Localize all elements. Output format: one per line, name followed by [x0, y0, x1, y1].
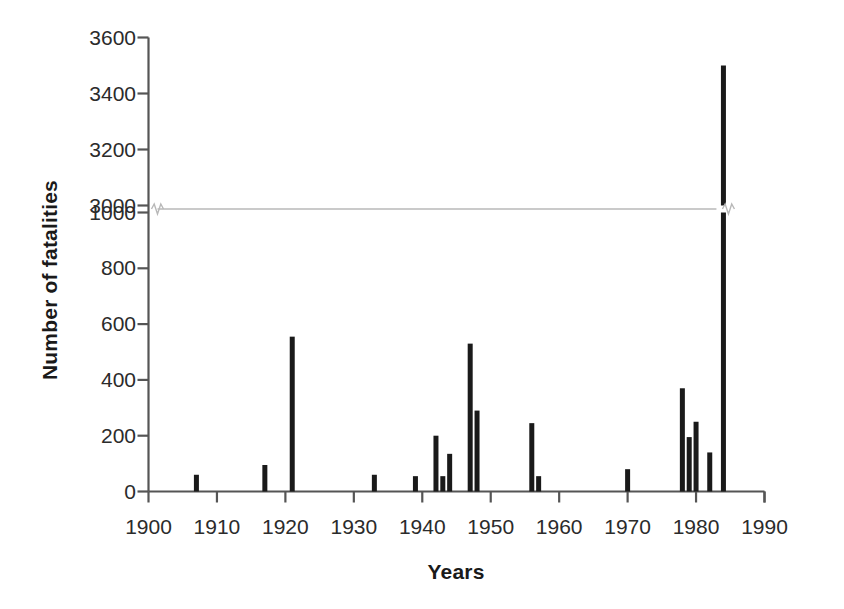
x-axis-tick-labels: 1900191019201930194019501960197019801990 — [0, 516, 844, 546]
bar — [694, 422, 699, 492]
bar — [468, 344, 473, 492]
bar — [475, 411, 480, 492]
bars-group — [194, 66, 726, 492]
y-axis-tick-label: 200 — [56, 425, 136, 446]
bar — [529, 423, 534, 491]
x-axis-tick-label: 1990 — [720, 516, 810, 537]
bar-lower-segment — [721, 213, 726, 492]
bar-upper-segment — [721, 66, 726, 206]
y-axis-tick-label: 400 — [56, 369, 136, 390]
y-axis-tick-label: 3400 — [56, 83, 136, 104]
bar — [687, 437, 692, 491]
bar — [536, 476, 541, 491]
bar — [262, 465, 267, 492]
bar — [194, 475, 199, 492]
y-axis-tick-label: 3600 — [56, 27, 136, 48]
y-axis-tick-label: 800 — [56, 257, 136, 278]
y-axis-tick-label: 600 — [56, 313, 136, 334]
x-axis-title: Years — [148, 560, 764, 584]
bar — [625, 469, 630, 491]
bar — [707, 452, 712, 491]
bar — [680, 388, 685, 491]
bar — [372, 475, 377, 492]
bar — [413, 476, 418, 491]
bar — [290, 337, 295, 492]
y-axis-tick-label: 3000 — [56, 195, 136, 216]
y-axis-tick-label: 3200 — [56, 139, 136, 160]
y-axis-tick-label: 0 — [56, 481, 136, 502]
axis-break-marker — [152, 204, 735, 214]
bar — [433, 436, 438, 492]
fatalities-bar-chart: Number of fatalities Years 0200400600800… — [0, 0, 844, 609]
bar — [440, 476, 445, 491]
axis-lines — [138, 38, 765, 503]
bar — [447, 454, 452, 492]
